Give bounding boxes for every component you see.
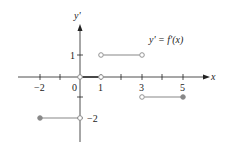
y-tick-label-m2: −2 [87, 113, 98, 124]
open-dot-icon [99, 75, 104, 80]
derivative-graph: y' x y' = f'(x) −2 0 1 3 5 1 −2 [0, 0, 227, 148]
x-tick-label-m2: −2 [34, 82, 45, 93]
function-label: y' = f'(x) [148, 34, 184, 46]
closed-dot-icon [38, 116, 43, 121]
open-dot-icon [99, 53, 104, 58]
x-tick-label-1: 1 [98, 82, 103, 93]
x-axis-arrow-icon [203, 75, 210, 80]
x-axis-label: x [210, 71, 216, 82]
open-dot-icon [140, 95, 145, 100]
x-tick-label-0: 0 [72, 82, 77, 93]
y-tick-label-1: 1 [70, 50, 75, 61]
endpoints [38, 53, 186, 121]
open-dot-icon [140, 53, 145, 58]
x-tick-label-5: 5 [180, 82, 185, 93]
open-dot-icon [78, 75, 83, 80]
closed-dot-icon [181, 95, 186, 100]
graph-segments [40, 55, 183, 118]
y-axis-label: y' [73, 10, 81, 21]
y-axis-arrow-icon [78, 24, 83, 31]
x-tick-label-3: 3 [139, 82, 144, 93]
open-dot-icon [78, 116, 83, 121]
